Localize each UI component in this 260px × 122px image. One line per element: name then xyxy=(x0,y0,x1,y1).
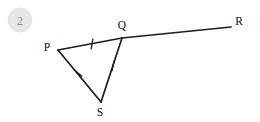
segment-qr xyxy=(122,27,231,38)
geometry-diagram: 2 P Q R S xyxy=(0,0,260,122)
tick-mark-group xyxy=(74,39,114,77)
vertex-label-q: Q xyxy=(118,19,127,31)
badge-number-label: 2 xyxy=(17,14,23,28)
vertex-label-r: R xyxy=(235,15,243,27)
question-number-badge: 2 xyxy=(8,8,32,32)
vertex-label-p: P xyxy=(44,41,50,53)
vertex-label-group: P Q R S xyxy=(44,15,243,118)
vertex-label-s: S xyxy=(97,106,103,118)
figure-canvas: 2 P Q R S xyxy=(0,0,260,122)
segment-group xyxy=(58,27,231,102)
segment-pq xyxy=(58,38,122,50)
segment-ps xyxy=(58,50,101,102)
